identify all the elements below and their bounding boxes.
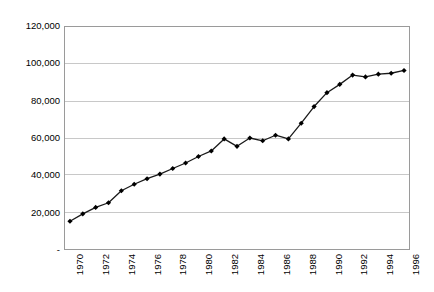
data-point-marker[interactable] [80, 211, 85, 216]
x-axis-tick-label: 1978 [177, 254, 188, 275]
data-point-marker[interactable] [376, 72, 381, 77]
data-series[interactable] [65, 27, 409, 249]
data-point-marker[interactable] [67, 219, 72, 224]
data-point-marker[interactable] [93, 205, 98, 210]
data-point-marker[interactable] [170, 166, 175, 171]
x-axis-tick-label: 1992 [358, 254, 369, 275]
x-axis-tick-label: 1996 [410, 254, 421, 275]
y-axis-tick-label: 20,000 [2, 208, 60, 218]
x-axis-labels: 1970197219741976197819801982198419861988… [64, 252, 410, 292]
y-axis-tick-label: - [2, 245, 60, 255]
x-axis-tick-label: 1980 [203, 254, 214, 275]
data-point-marker[interactable] [273, 133, 278, 138]
x-axis-tick-label: 1976 [152, 254, 163, 275]
x-axis-tick-label: 1972 [100, 254, 111, 275]
data-point-marker[interactable] [132, 182, 137, 187]
line-chart: 120,000100,00080,00060,00040,00020,000- … [0, 0, 434, 292]
y-axis-labels: 120,000100,00080,00060,00040,00020,000- [0, 0, 60, 292]
data-point-marker[interactable] [389, 71, 394, 76]
y-axis-tick-label: 40,000 [2, 170, 60, 180]
x-axis-tick-label: 1988 [307, 254, 318, 275]
data-point-marker[interactable] [363, 74, 368, 79]
data-point-marker[interactable] [401, 68, 406, 73]
x-axis-tick-label: 1974 [126, 254, 137, 275]
data-point-marker[interactable] [157, 171, 162, 176]
x-axis-tick-label: 1970 [74, 254, 85, 275]
data-point-marker[interactable] [183, 160, 188, 165]
data-point-marker[interactable] [196, 154, 201, 159]
x-axis-tick-label: 1994 [384, 254, 395, 275]
y-axis-tick-label: 80,000 [2, 96, 60, 106]
x-axis-tick-label: 1986 [281, 254, 292, 275]
y-axis-tick-label: 100,000 [2, 58, 60, 68]
data-point-marker[interactable] [260, 138, 265, 143]
y-axis-tick-label: 120,000 [2, 21, 60, 31]
x-axis-tick-label: 1984 [255, 254, 266, 275]
x-axis-tick-label: 1990 [333, 254, 344, 275]
y-axis-tick-label: 60,000 [2, 133, 60, 143]
x-axis-tick-label: 1982 [229, 254, 240, 275]
data-point-marker[interactable] [144, 176, 149, 181]
plot-area [64, 26, 410, 250]
